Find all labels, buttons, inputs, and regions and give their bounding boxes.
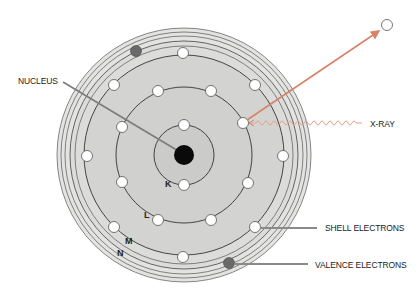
electron: [117, 177, 128, 188]
electron: [109, 222, 120, 233]
valence-electrons-label: VALENCE ELECTRONS: [315, 260, 407, 270]
electron: [153, 215, 164, 226]
electron: [278, 151, 289, 162]
valence-electron: [131, 46, 142, 57]
electron: [206, 215, 217, 226]
shell-k-label: K: [165, 179, 172, 189]
electron: [179, 180, 190, 191]
shell-n-label: N: [117, 248, 124, 258]
ejected-electron: [382, 20, 393, 31]
shell-electron-example: [250, 222, 261, 233]
atom-diagram: NUCLEUS X-RAY SHELL ELECTRONS VALENCE EL…: [0, 0, 416, 302]
electron: [153, 86, 164, 97]
shell-m-label: M: [125, 236, 133, 246]
electron: [178, 48, 189, 59]
electron: [179, 120, 190, 131]
nucleus-label: NUCLEUS: [18, 76, 58, 86]
electron: [109, 80, 120, 91]
electron: [243, 178, 254, 189]
electron: [250, 80, 261, 91]
valence-electron: [224, 258, 235, 269]
xray-label: X-RAY: [370, 119, 395, 129]
electron: [178, 252, 189, 263]
electron: [82, 151, 93, 162]
electron: [117, 122, 128, 133]
electron: [206, 86, 217, 97]
shell-l-label: L: [144, 210, 150, 220]
shell-electrons-label: SHELL ELECTRONS: [325, 223, 405, 233]
nucleus: [174, 145, 194, 165]
